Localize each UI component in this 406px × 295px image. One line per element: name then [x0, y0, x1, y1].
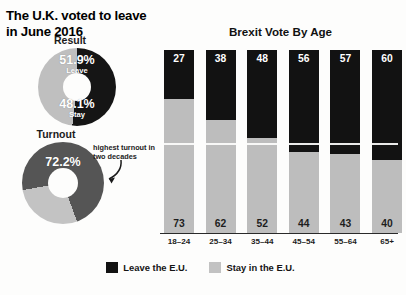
result-leave-label: 51.9% Leave — [38, 54, 116, 74]
legend-item[interactable]: Stay in the E.U. — [209, 262, 294, 273]
result-leave-name: Leave — [38, 67, 116, 75]
bar-value-leave: 57 — [330, 53, 360, 64]
left-panel: The U.K. voted to leave in June 2016 Res… — [0, 0, 160, 255]
bar-segment-stay[interactable]: 73 — [164, 99, 194, 233]
turnout-donut-title: Turnout — [0, 128, 126, 140]
bar-value-stay: 73 — [164, 218, 194, 229]
bar-value-leave: 48 — [247, 53, 277, 64]
turnout-donut-hole — [48, 168, 78, 198]
bar-segment-stay[interactable]: 40 — [372, 160, 402, 233]
bar-value-leave: 56 — [289, 53, 319, 64]
result-donut: Result 51.9% Leave 48.1% Stay — [0, 34, 140, 130]
bar-value-stay: 44 — [289, 218, 319, 229]
x-tick-label: 35–44 — [242, 237, 282, 246]
x-tick-label: 45–54 — [284, 237, 324, 246]
turnout-value-label: 72.2% — [22, 156, 104, 169]
bar-column[interactable]: 4852 — [247, 50, 277, 233]
legend-label: Leave the E.U. — [123, 262, 187, 273]
bar-segment-stay[interactable]: 43 — [330, 154, 360, 233]
result-donut-title: Result — [0, 34, 140, 46]
bar-column[interactable]: 6040 — [372, 50, 402, 233]
bar-segment-leave[interactable]: 57 — [330, 50, 360, 154]
legend-label: Stay in the E.U. — [226, 262, 294, 273]
bar-segment-leave[interactable]: 48 — [247, 50, 277, 138]
x-axis-line — [160, 233, 398, 234]
legend-swatch — [106, 262, 118, 273]
bar-value-stay: 43 — [330, 218, 360, 229]
bar-value-stay: 62 — [206, 218, 236, 229]
result-stay-name: Stay — [38, 111, 116, 119]
bar-column[interactable]: 2773 — [164, 50, 194, 233]
bar-segment-stay[interactable]: 44 — [289, 152, 319, 233]
bar-segment-leave[interactable]: 38 — [206, 50, 236, 120]
bar-value-leave: 27 — [164, 53, 194, 64]
bar-segment-leave[interactable]: 56 — [289, 50, 319, 152]
curved-arrow-icon — [96, 158, 126, 186]
bar-column[interactable]: 3862 — [206, 50, 236, 233]
bar-chart-panel: Brexit Vote By Age 277318–24386225–34485… — [160, 0, 401, 255]
x-tick-label: 65+ — [367, 237, 406, 246]
bar-value-leave: 60 — [372, 53, 402, 64]
legend: Leave the E.U.Stay in the E.U. — [0, 262, 401, 273]
scan-artifact-line — [160, 143, 398, 145]
result-stay-value: 48.1% — [38, 98, 116, 111]
result-leave-value: 51.9% — [38, 54, 116, 67]
bar-value-stay: 52 — [247, 218, 277, 229]
x-tick-label: 25–34 — [201, 237, 241, 246]
plot-area: 277318–24386225–34485235–44564445–545743… — [160, 0, 401, 255]
result-stay-label: 48.1% Stay — [38, 98, 116, 118]
bar-column[interactable]: 5644 — [289, 50, 319, 233]
legend-item[interactable]: Leave the E.U. — [106, 262, 187, 273]
bar-segment-stay[interactable]: 62 — [206, 120, 236, 233]
bar-value-leave: 38 — [206, 53, 236, 64]
x-tick-label: 18–24 — [159, 237, 199, 246]
bar-value-stay: 40 — [372, 218, 402, 229]
x-tick-label: 55–64 — [325, 237, 365, 246]
legend-swatch — [209, 262, 221, 273]
bar-segment-leave[interactable]: 27 — [164, 50, 194, 99]
turnout-value: 72.2% — [22, 156, 104, 169]
bar-segment-stay[interactable]: 52 — [247, 138, 277, 233]
bar-column[interactable]: 5743 — [330, 50, 360, 233]
